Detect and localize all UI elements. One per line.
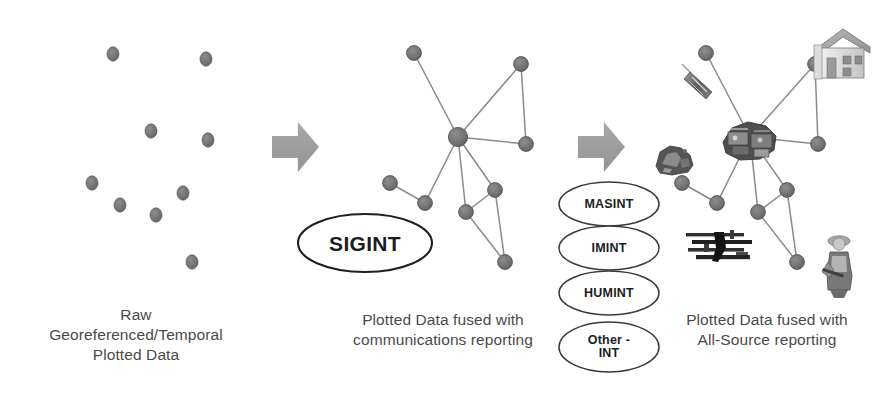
- sigint-network-edge: [458, 64, 521, 137]
- weapons-photo-icon: [686, 230, 752, 262]
- raw-data-dot: [86, 176, 98, 190]
- building-photo-icon: [814, 29, 870, 79]
- raw-data-dot: [107, 47, 119, 61]
- sigint-ellipse[interactable]: [298, 214, 432, 272]
- imagery-icons-group: [656, 29, 870, 298]
- signal-device-photo-icon: [682, 64, 712, 99]
- raw-data-dot: [186, 255, 198, 269]
- raw-data-dot: [200, 52, 212, 66]
- arrow-raw-to-sigint: [272, 122, 319, 172]
- raw-data-dot: [202, 133, 214, 147]
- raw-plotted-dots-group: [86, 47, 214, 269]
- sigint-network-node: [498, 255, 513, 270]
- sigint-network-node: [418, 196, 433, 211]
- sigint-network-edge: [458, 137, 526, 144]
- raw-data-dot: [145, 124, 157, 138]
- allsource-network-node: [780, 183, 795, 198]
- sigint-network-edge: [521, 64, 526, 144]
- sigint-network-node: [514, 57, 529, 72]
- int-ellipse-3[interactable]: [559, 271, 659, 315]
- allsource-network-node: [710, 196, 725, 211]
- sigint-network-edge: [414, 53, 458, 137]
- flow-arrows-group: [272, 122, 625, 172]
- int-discipline-ellipses: [559, 182, 659, 372]
- int-ellipse-1[interactable]: [559, 182, 659, 226]
- person-photo-icon: [822, 236, 852, 298]
- caption-allsource-fused: Plotted Data fused with All-Source repor…: [645, 310, 889, 350]
- sigint-network-node: [383, 176, 398, 191]
- caption-sigint-fused: Plotted Data fused with communications r…: [318, 310, 568, 350]
- int-ellipse-2[interactable]: [559, 226, 659, 270]
- raw-data-dot: [150, 208, 162, 222]
- sigint-network-node: [488, 183, 503, 198]
- caption-raw-plotted-data: Raw Georeferenced/Temporal Plotted Data: [0, 305, 272, 365]
- sigint-network-node: [407, 46, 422, 61]
- allsource-network-node: [699, 46, 714, 61]
- sigint-network-node: [459, 205, 474, 220]
- arrow-sigint-to-allsource: [578, 122, 625, 172]
- diagram-canvas: Raw Georeferenced/Temporal Plotted Data …: [0, 0, 889, 398]
- rubble-photo-icon: [656, 146, 693, 175]
- vehicle-cluster-photo-icon: [723, 122, 776, 160]
- allsource-network-node: [790, 255, 805, 270]
- raw-data-dot: [177, 186, 189, 200]
- sigint-network-node: [519, 137, 534, 152]
- sigint-network-node-hub: [448, 127, 467, 146]
- allsource-network-node: [811, 137, 826, 152]
- allsource-network-node: [675, 176, 690, 191]
- allsource-network-node: [751, 205, 766, 220]
- int-ellipse-4[interactable]: [559, 322, 659, 372]
- sigint-network-edge: [458, 137, 466, 212]
- sigint-network-edge: [425, 137, 458, 203]
- raw-data-dot: [114, 198, 126, 212]
